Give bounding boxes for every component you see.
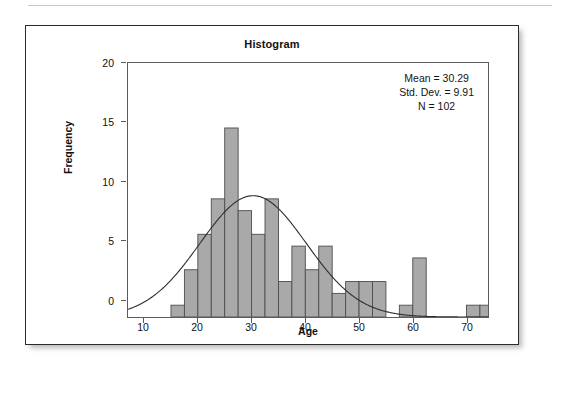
y-tick-label-4: 0	[88, 295, 114, 307]
histogram-bar	[225, 128, 238, 317]
histogram-bar	[198, 234, 211, 317]
x-tick-mark-60	[413, 318, 414, 323]
histogram-bar	[319, 246, 332, 317]
x-tick-mark-20	[197, 318, 198, 323]
plot-area: Mean = 30.29 Std. Dev. = 9.91 N = 102	[127, 62, 489, 318]
histogram-bar	[480, 305, 488, 317]
histogram-bar	[372, 282, 385, 317]
histogram-bar	[278, 282, 291, 317]
y-tick-label-3: 5	[88, 235, 114, 247]
bars-group	[171, 128, 488, 317]
y-tick-mark-10	[121, 181, 126, 182]
histogram-bar	[413, 258, 426, 317]
histogram-bar	[171, 305, 184, 317]
x-tick-mark-30	[251, 318, 252, 323]
x-tick-mark-50	[359, 318, 360, 323]
x-tick-mark-70	[467, 318, 468, 323]
histogram-bar	[467, 305, 480, 317]
y-tick-mark-5	[121, 240, 126, 241]
y-tick-label-0: 20	[88, 57, 114, 69]
y-tick-label-2: 10	[88, 176, 114, 188]
figure-root: Histogram Frequency Age 20 15 10 5 0 10 …	[0, 0, 578, 394]
stats-mean: Mean = 30.29	[399, 71, 474, 85]
histogram-bar	[265, 199, 278, 317]
page-title: Histogram	[26, 38, 518, 50]
histogram-bar	[184, 270, 197, 317]
top-divider	[28, 5, 552, 6]
histogram-bar	[332, 293, 345, 317]
y-tick-mark-0	[121, 300, 126, 301]
histogram-bar	[305, 270, 318, 317]
y-axis-label: Frequency	[62, 121, 74, 174]
stats-annotation: Mean = 30.29 Std. Dev. = 9.91 N = 102	[399, 71, 474, 113]
y-tick-mark-20	[121, 62, 126, 63]
stats-stddev: Std. Dev. = 9.91	[399, 85, 474, 99]
y-tick-mark-15	[121, 121, 126, 122]
histogram-bar	[252, 234, 265, 317]
stats-n: N = 102	[399, 99, 474, 113]
x-tick-mark-10	[143, 318, 144, 323]
figure-card: Histogram Frequency Age 20 15 10 5 0 10 …	[25, 25, 519, 345]
histogram-bar	[238, 211, 251, 317]
y-tick-label-1: 15	[88, 116, 114, 128]
histogram-bar	[211, 199, 224, 317]
histogram-bar	[359, 282, 372, 317]
histogram-bar	[292, 246, 305, 317]
x-tick-mark-40	[305, 318, 306, 323]
